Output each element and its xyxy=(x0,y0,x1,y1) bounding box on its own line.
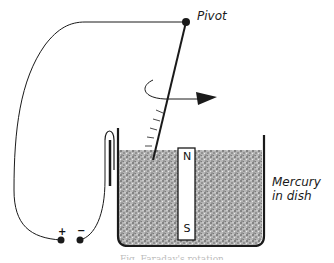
pivot-point xyxy=(182,18,190,26)
negative-terminal xyxy=(77,237,84,244)
rotation-arrowhead xyxy=(196,92,217,105)
positive-terminal xyxy=(58,237,65,244)
mercury-label: Mercury in dish xyxy=(272,175,321,203)
figure-caption: Fig. Faraday's rotation xyxy=(120,254,224,260)
mercury-label-line2: in dish xyxy=(272,189,321,203)
faraday-rotation-diagram xyxy=(0,0,334,263)
hanging-wire xyxy=(153,22,186,160)
positive-sign: + xyxy=(58,226,66,237)
rotation-arrow xyxy=(145,80,200,99)
mercury-label-line1: Mercury xyxy=(272,175,321,189)
pivot-label: Pivot xyxy=(197,9,227,23)
negative-sign: − xyxy=(77,225,85,236)
magnet-south-label: S xyxy=(180,222,194,235)
magnet-north-label: N xyxy=(180,150,194,163)
